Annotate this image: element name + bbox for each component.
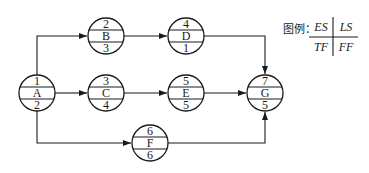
edge-f-g [168,112,265,143]
node-c: 3C4 [88,74,124,112]
network-diagram: 1A22B33C44D15E56F67G5 图例： ES LS TF FF [0,0,369,173]
legend: 图例： ES LS TF FF [283,17,358,56]
node-tf-value: 5 [262,98,268,112]
legend-tf: TF [314,40,329,54]
node-tf-value: 3 [103,41,109,55]
node-b: 2B3 [88,17,124,55]
node-tf-value: 4 [103,98,109,112]
legend-es: ES [313,20,327,34]
node-tf-value: 1 [183,41,189,55]
node-tf-value: 2 [34,98,40,112]
node-a: 1A2 [19,74,55,112]
edge-d-g [204,36,265,74]
node-tf-value: 5 [183,98,189,112]
legend-ff: FF [338,40,354,54]
node-g: 7G5 [247,74,283,112]
legend-label: 图例： [283,22,316,36]
node-tf-value: 6 [147,148,153,162]
legend-ls: LS [339,20,353,34]
edge-a-f [37,111,131,143]
node-e: 5E5 [168,74,204,112]
node-d: 4D1 [168,17,204,55]
node-f: 6F6 [132,124,168,162]
nodes: 1A22B33C44D15E56F67G5 [19,17,283,162]
edge-a-b [37,36,87,75]
